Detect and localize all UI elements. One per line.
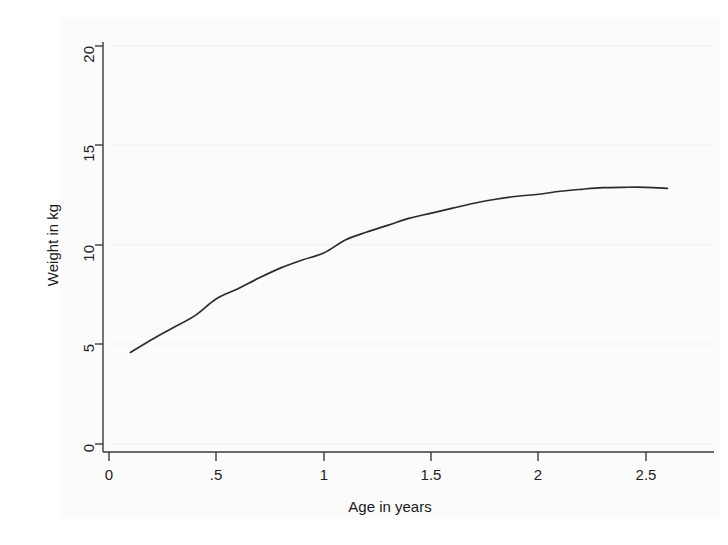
y-tick-label-15: 15 (80, 145, 97, 162)
chart-figure: 20 15 10 5 0 0 .5 1 1.5 2 2.5 Weight in … (0, 0, 728, 545)
x-tick-label-0_5: .5 (210, 466, 223, 483)
plot-canvas (0, 0, 728, 545)
y-tick-label-0: 0 (80, 444, 97, 452)
x-tick-label-0: 0 (105, 466, 113, 483)
x-tick-label-1: 1 (320, 466, 328, 483)
x-ticks (109, 452, 646, 461)
y-tick-label-10: 10 (80, 245, 97, 262)
figure-page: 20 15 10 5 0 0 .5 1 1.5 2 2.5 Weight in … (0, 0, 728, 545)
x-axis-title: Age in years (348, 498, 431, 515)
x-tick-label-2_5: 2.5 (636, 466, 657, 483)
x-tick-label-2: 2 (534, 466, 542, 483)
x-tick-label-1_5: 1.5 (421, 466, 442, 483)
growth-curve-line (130, 187, 667, 352)
y-tick-label-5: 5 (80, 344, 97, 352)
y-axis-title: Weight in kg (44, 204, 61, 286)
y-tick-label-20: 20 (80, 46, 97, 63)
gridlines (109, 46, 712, 444)
